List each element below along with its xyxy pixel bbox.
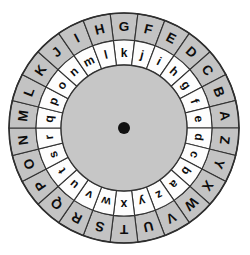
cipher-disc-graphic[interactable]: GFEDCBAZYXWVUTSRQPONMLKJIH kjihgfedcbazy… xyxy=(0,0,250,255)
inner-ring-letter-x: x xyxy=(120,197,127,211)
center-pivot-pin-icon[interactable] xyxy=(118,122,130,134)
outer-ring-letter-N: N xyxy=(15,134,31,145)
cipher-disc-figure: GFEDCBAZYXWVUTSRQPONMLKJIH kjihgfedcbazy… xyxy=(0,0,250,255)
outer-ring-letter-T: T xyxy=(119,222,128,237)
outer-ring-letter-G: G xyxy=(119,19,130,34)
outer-ring-letter-M: M xyxy=(15,109,31,122)
inner-ring-letter-k: k xyxy=(121,46,128,60)
